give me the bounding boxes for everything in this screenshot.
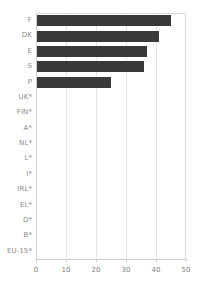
category-label-A: A* [0,121,32,136]
category-label-P: P [0,75,32,90]
category-label-EL: EL* [0,198,32,213]
tick-mark-0 [36,259,37,262]
category-label-F: F [0,13,32,28]
tick-mark-30 [126,259,127,262]
category-label-L: L* [0,151,32,166]
bar-DK [36,31,159,42]
tick-mark-40 [156,259,157,262]
bar-F [36,15,171,26]
tick-mark-50 [186,259,187,262]
category-label-E: E [0,44,32,59]
category-label-I: I* [0,167,32,182]
plot-border-right [185,13,186,259]
x-tick-label-10: 10 [61,266,70,274]
category-label-FIN: FIN* [0,105,32,120]
category-label-S: S [0,59,32,74]
bar-E [36,46,147,57]
category-label-B: B* [0,228,32,243]
gridline-40 [156,13,157,259]
bar-P [36,77,111,88]
x-tick-label-50: 50 [181,266,190,274]
x-axis-line [36,259,186,260]
y-axis-line [36,13,37,260]
category-label-D: D* [0,213,32,228]
plot-border-top [36,13,186,14]
plot-area [36,13,186,259]
x-tick-label-40: 40 [151,266,160,274]
bar-S [36,61,144,72]
category-label-NL: NL* [0,136,32,151]
category-label-UK: UK* [0,90,32,105]
category-label-IRL: IRL* [0,182,32,197]
tick-mark-10 [66,259,67,262]
tick-mark-20 [96,259,97,262]
category-label-DK: DK [0,28,32,43]
category-label-EU15: EU-15* [0,244,32,259]
bar-chart: 01020304050 FDKESPUK*FIN*A*NL*L*I*IRL*EL… [0,0,198,295]
x-tick-label-20: 20 [91,266,100,274]
x-tick-label-30: 30 [121,266,130,274]
x-tick-label-0: 0 [34,266,39,274]
